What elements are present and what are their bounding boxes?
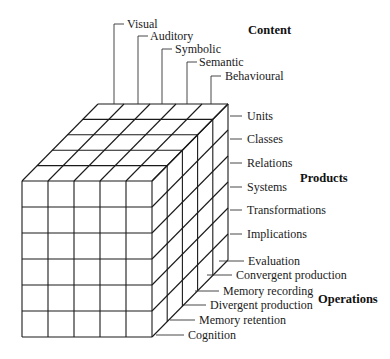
leader-line: [211, 76, 221, 104]
grid-line: [152, 156, 228, 233]
products-title: Products: [300, 171, 348, 185]
operations-item-convergent-production: Convergent production: [236, 268, 347, 282]
operations-item-cognition: Cognition: [188, 328, 236, 342]
operations-title: Operations: [318, 292, 378, 306]
leader-line: [187, 62, 197, 104]
soi-cube-diagram: Content Products Operations Visual Audit…: [0, 0, 390, 359]
content-item-behavioural: Behavioural: [225, 69, 284, 83]
content-item-symbolic: Symbolic: [175, 42, 221, 56]
content-item-auditory: Auditory: [150, 29, 193, 43]
grid-line: [152, 208, 228, 285]
grid-line: [152, 182, 228, 259]
grid-line: [152, 130, 228, 207]
products-item-transformations: Transformations: [247, 203, 326, 217]
products-item-units: Units: [247, 109, 273, 123]
products-item-implications: Implications: [247, 227, 307, 241]
products-item-relations: Relations: [247, 156, 293, 170]
operations-item-memory-recording: Memory recording: [223, 284, 313, 298]
labels: Content Products Operations Visual Audit…: [127, 17, 378, 342]
operations-item-memory-retention: Memory retention: [199, 313, 286, 327]
operations-item-divergent-production: Divergent production: [210, 298, 313, 312]
products-item-systems: Systems: [247, 180, 287, 194]
content-item-semantic: Semantic: [199, 55, 244, 69]
cube-grid: [22, 104, 228, 337]
leader-line: [114, 24, 124, 104]
leader-line: [162, 49, 172, 104]
content-title: Content: [248, 23, 292, 37]
operations-item-evaluation: Evaluation: [248, 254, 300, 268]
leader-line: [138, 36, 148, 104]
products-item-classes: Classes: [247, 132, 283, 146]
